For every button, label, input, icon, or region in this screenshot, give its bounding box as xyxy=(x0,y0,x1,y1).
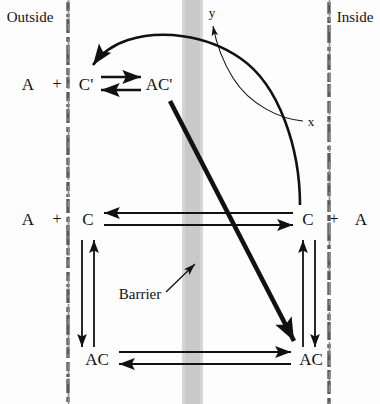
label-inside: Inside xyxy=(337,10,374,25)
bottom-transport-arrows xyxy=(119,352,291,364)
species-top-left-carrier: C' xyxy=(79,76,93,93)
plus-middle-right: + xyxy=(329,211,338,227)
label-axis-y: y xyxy=(209,6,216,19)
top-equilibrium-arrows xyxy=(101,77,141,90)
species-middle-right-a: A xyxy=(355,211,367,228)
label-axis-x: x xyxy=(308,115,315,128)
plus-middle-left: + xyxy=(52,211,61,227)
diagram-canvas xyxy=(0,0,380,404)
species-top-complex: AC' xyxy=(146,76,173,93)
label-barrier: Barrier xyxy=(119,287,161,302)
species-middle-right-carrier: C xyxy=(302,211,313,228)
barrier-band xyxy=(182,0,203,404)
right-vertical-arrows xyxy=(303,240,315,347)
species-top-left-a: A xyxy=(22,76,34,93)
plus-top-left: + xyxy=(52,76,61,92)
label-outside: Outside xyxy=(7,10,54,25)
species-middle-left-a: A xyxy=(22,211,34,228)
species-middle-left-carrier: C xyxy=(82,211,93,228)
species-bottom-right-complex: AC xyxy=(299,351,323,368)
species-bottom-left-complex: AC xyxy=(85,351,109,368)
left-vertical-arrows xyxy=(82,240,94,347)
membrane-transport-diagram: Outside Inside y x A + C' AC' A + C C + … xyxy=(0,0,380,404)
